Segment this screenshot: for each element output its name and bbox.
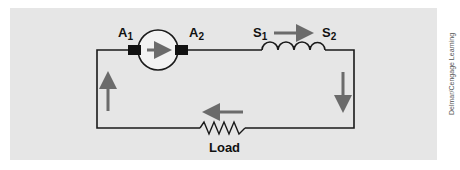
label-s1: S1: [253, 25, 268, 42]
circuit-wires: [97, 50, 354, 128]
image-credit: Delmar/Cengage Learning: [448, 33, 455, 115]
wire-right: [245, 50, 354, 128]
load-resistor: [200, 112, 245, 134]
brush-a2: [175, 45, 188, 55]
series-field-coil: [262, 33, 325, 50]
label-load: Load: [209, 140, 240, 155]
label-s2: S2: [322, 25, 337, 42]
coil-icon: [262, 42, 325, 50]
brush-a1: [128, 45, 141, 55]
label-a1: A1: [118, 25, 133, 42]
diagram-stage: A1 A2 S1 S2 Load Delmar/Cengage Learning: [0, 0, 460, 170]
resistor-icon: [200, 122, 245, 134]
armature: [128, 30, 188, 70]
series-generator-circuit: A1 A2 S1 S2 Load: [0, 0, 460, 170]
label-a2: A2: [189, 25, 204, 42]
